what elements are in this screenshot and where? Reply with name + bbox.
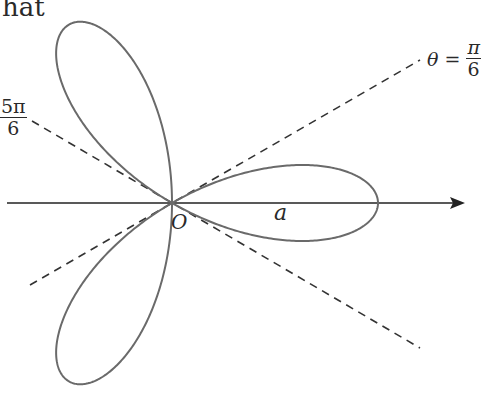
origin-label: O	[171, 210, 187, 234]
dashed-line-pi-over-6	[30, 60, 420, 285]
header-text-fragment: hat	[2, 0, 45, 22]
theta-equals: θ =	[427, 48, 460, 70]
label-theta-pi-over-6: θ = π 6	[427, 38, 481, 79]
denominator: 6	[468, 59, 480, 79]
denominator: 6	[7, 118, 19, 138]
polar-diagram	[0, 0, 481, 393]
fraction-pi-over-6: π 6	[466, 38, 481, 79]
numerator: 5π	[0, 97, 27, 118]
radius-label: a	[274, 200, 287, 225]
fraction-5pi-over-6: 5π 6	[0, 97, 27, 138]
dashed-line-5pi-over-6	[32, 121, 420, 348]
label-5pi-over-6: 5π 6	[0, 95, 27, 138]
numerator: π	[466, 38, 481, 59]
